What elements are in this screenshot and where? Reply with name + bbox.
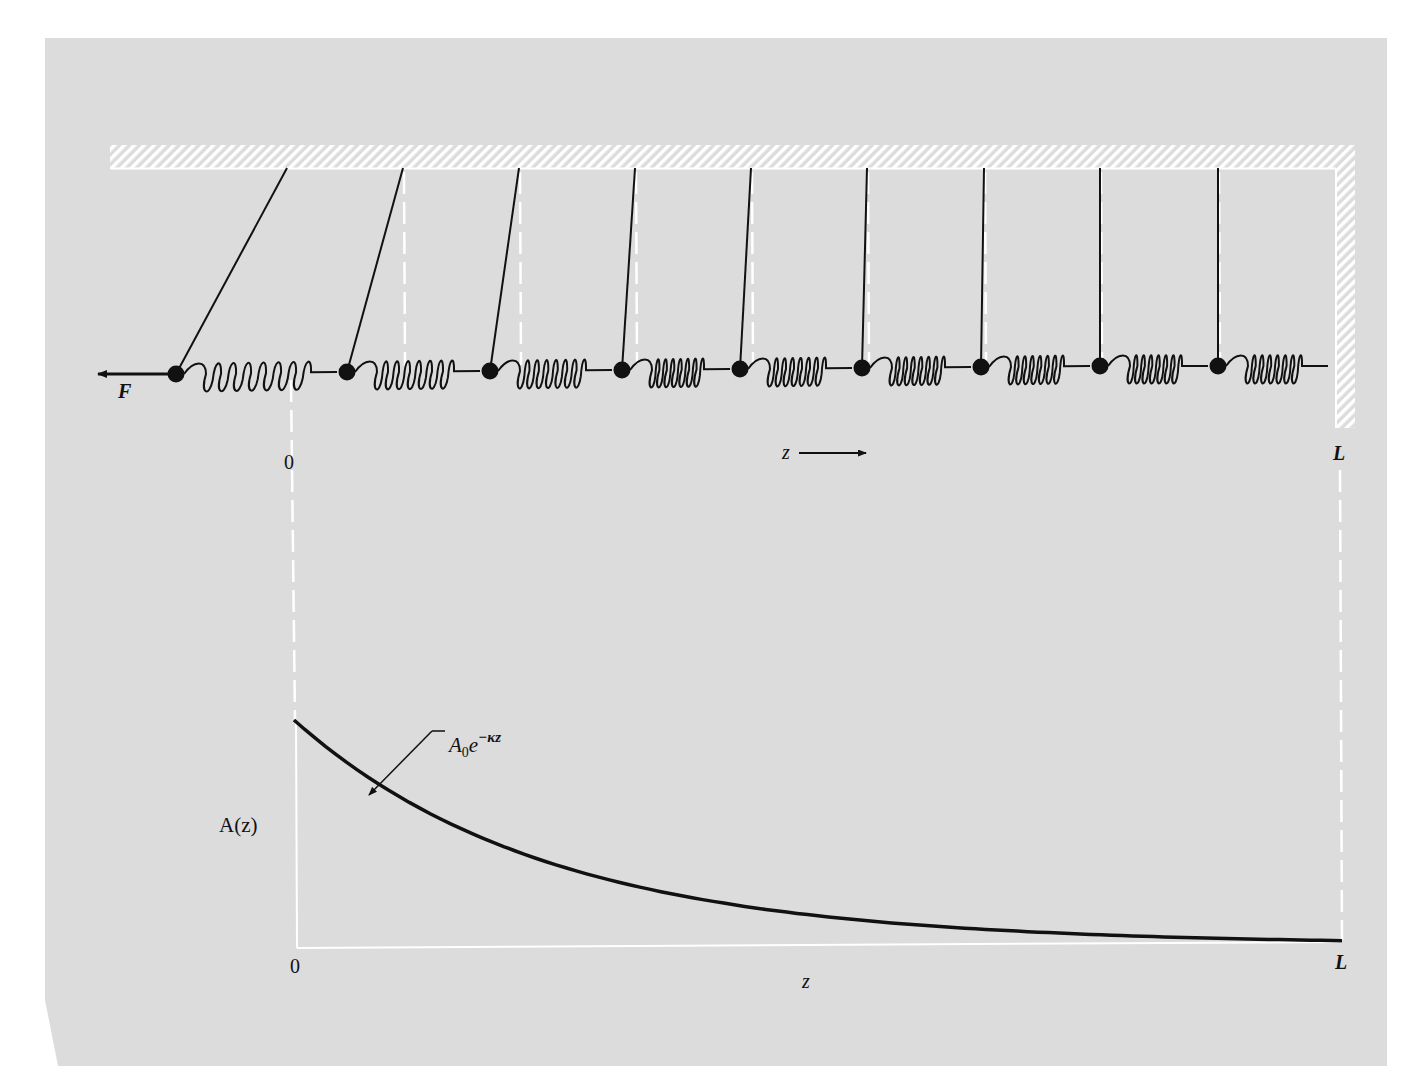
x-origin-label: 0 <box>290 955 300 977</box>
y-axis <box>296 720 297 948</box>
ceiling-hatch <box>110 145 1355 168</box>
x-axis-label: z <box>801 970 810 992</box>
force-label: F <box>117 380 132 402</box>
x-end-label: L <box>1334 951 1347 973</box>
right-wall-hatch <box>1336 145 1355 428</box>
pendulum-mass <box>854 360 871 377</box>
pendulum-mass <box>482 363 499 380</box>
top-origin-label: 0 <box>284 451 294 473</box>
pendulum-mass <box>732 361 749 378</box>
pendulum-mass <box>973 359 990 376</box>
figure-panel <box>45 38 1387 1066</box>
top-end-label: L <box>1332 442 1345 464</box>
top-axis-label: z <box>781 441 790 463</box>
pendulum-mass <box>339 364 356 381</box>
pendulum-mass <box>614 362 631 379</box>
y-axis-label: A(z) <box>219 813 257 837</box>
pendulum-mass <box>1092 358 1109 375</box>
pendulum-mass <box>1210 358 1227 375</box>
coupled-pendulum-figure: F 0 z L A0e−κz A(z) 0 z L <box>0 0 1424 1071</box>
